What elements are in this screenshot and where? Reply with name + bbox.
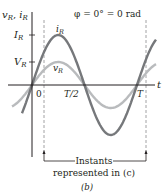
arrow-up-icon <box>43 150 46 154</box>
tick-label-IR: IR <box>13 29 24 42</box>
x-axis-label: t <box>157 79 162 90</box>
figure-caption: (b) <box>81 182 93 192</box>
phasor-waveform-diagram: vR, iR IR VR t 0 T/2 T φ = 0° = 0 rad iR… <box>0 0 165 194</box>
instants-bracket <box>44 152 75 161</box>
annotation-line1: Instants <box>76 156 113 166</box>
voltage-curve-label: vR <box>53 63 63 75</box>
x-tick-0: 0 <box>36 89 42 99</box>
annotation-line2: represented in (c) <box>53 168 135 178</box>
y-axis-label: vR, iR <box>2 9 29 22</box>
x-tick-half-period: T/2 <box>64 89 79 99</box>
instants-bracket-right <box>113 152 146 161</box>
arrow-up-icon <box>145 150 148 154</box>
x-tick-period: T <box>137 89 144 99</box>
tick-label-VR: VR <box>14 56 27 69</box>
phase-title: φ = 0° = 0 rad <box>74 9 141 19</box>
